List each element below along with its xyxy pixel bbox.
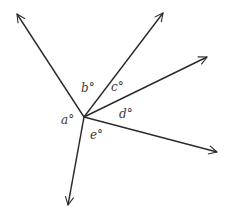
angle-label-a: a° xyxy=(61,114,74,126)
ray-right-lower-arrow xyxy=(84,117,217,152)
ray-down-arrow xyxy=(68,117,84,205)
angle-label-b: b° xyxy=(81,82,95,94)
ray-upper-left-arrow xyxy=(17,14,84,117)
angle-diagram: a° b° c° d° e° xyxy=(0,0,227,214)
ray-upper-right-arrow xyxy=(84,13,163,117)
ray-right-upper-arrow xyxy=(84,57,207,117)
angle-label-d: d° xyxy=(119,108,133,120)
angle-label-e: e° xyxy=(90,129,103,141)
angle-label-c: c° xyxy=(111,81,124,93)
rays-canvas xyxy=(0,0,227,214)
